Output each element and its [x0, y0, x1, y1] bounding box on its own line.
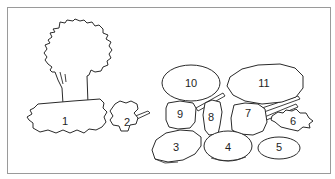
item-9-label: 9 [177, 109, 183, 120]
diagram-canvas: 1 2 3 4 5 6 7 8 9 10 11 [0, 0, 335, 179]
item-3-label: 3 [173, 142, 179, 153]
item-8-label: 8 [208, 112, 214, 123]
item-1-label: 1 [62, 116, 68, 127]
diagram-svg [0, 0, 335, 179]
item-10-label: 10 [185, 78, 197, 89]
item-4-label: 4 [225, 142, 231, 153]
item-2-label: 2 [124, 117, 130, 128]
item-5-label: 5 [276, 142, 282, 153]
tree-icon [44, 19, 112, 104]
item-11-label: 11 [258, 78, 269, 89]
item-7-label: 7 [245, 108, 251, 119]
item-6-label: 6 [290, 116, 296, 127]
